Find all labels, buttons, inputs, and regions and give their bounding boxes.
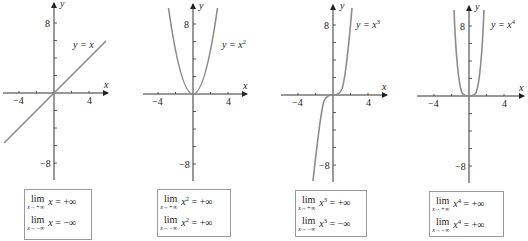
limit-pos-inf: limx→+∞ x2 = +∞	[164, 193, 226, 214]
y-axis-label: y	[59, 0, 65, 9]
y-axis-label: y	[474, 1, 480, 12]
limit-pos-inf: limx→+∞ x4 = +∞	[436, 195, 499, 216]
plot-fourth: y x −4 4 8 −8 y = x4	[417, 1, 524, 183]
lim-operator: lim	[164, 214, 177, 225]
lim-operator: lim	[302, 194, 315, 205]
x-axis-label: x	[381, 81, 387, 92]
limits-box-fourth: limx→+∞ x4 = +∞ limx→−∞ x4 = +∞	[429, 191, 504, 237]
lim-operator: lim	[31, 193, 44, 204]
limit-neg-inf: limx→−∞ x4 = +∞	[436, 216, 499, 237]
lim-approach: x→+∞	[432, 206, 449, 213]
x-tick-4: 4	[502, 98, 507, 109]
x-axis-label: x	[242, 80, 248, 91]
x-tick-neg4: −4	[292, 97, 303, 108]
x-tick-neg4: −4	[428, 98, 439, 109]
limit-neg-inf: limx→−∞ x = −∞	[31, 214, 87, 235]
plot-cube: y x −4 4 8 −8 y = x3	[281, 0, 387, 182]
lim-expression: x3 = +∞	[319, 194, 350, 208]
y-axis-label: y	[339, 0, 345, 11]
limits-box-identity: limx→+∞ x = +∞ limx→−∞ x = −∞	[24, 189, 92, 240]
x-tick-4: 4	[87, 95, 92, 106]
x-axis-label: x	[103, 79, 109, 90]
curve-label: y = x	[72, 39, 94, 50]
lim-operator: lim	[164, 193, 177, 204]
lim-expression: x4 = +∞	[453, 195, 484, 209]
x-axis-label: x	[518, 82, 524, 93]
lim-expression: x2 = +∞	[181, 214, 212, 228]
limits-box-cube: limx→+∞ x3 = +∞ limx→−∞ x3 = −∞	[295, 190, 367, 237]
curve-label: y = x3	[355, 18, 380, 30]
y-tick-8: 8	[324, 20, 329, 31]
lim-expression: x4 = +∞	[453, 216, 484, 230]
plot-identity: y x −4 4 8 −8 y = x	[3, 0, 109, 180]
lim-operator: lim	[302, 215, 315, 226]
lim-expression: x = −∞	[48, 214, 76, 228]
plot-square: y x −4 4 8 −8 y = x2	[143, 0, 248, 181]
lim-operator: lim	[436, 216, 449, 227]
limits-box-square: limx→+∞ x2 = +∞ limx→−∞ x2 = +∞	[157, 189, 231, 237]
x-tick-4: 4	[226, 96, 231, 107]
limit-pos-inf: limx→+∞ x3 = +∞	[302, 194, 362, 215]
y-axis-label: y	[198, 0, 204, 11]
y-tick-neg8: −8	[179, 159, 190, 170]
y-tick-neg8: −8	[319, 160, 330, 171]
lim-operator: lim	[436, 195, 449, 206]
limit-neg-inf: limx→−∞ x3 = −∞	[302, 215, 362, 236]
x-tick-4: 4	[366, 97, 371, 108]
lim-expression: x3 = −∞	[319, 215, 350, 229]
lim-approach: x→+∞	[160, 204, 177, 211]
x-tick-neg4: −4	[13, 95, 24, 106]
lim-approach: x→−∞	[27, 225, 44, 232]
lim-approach: x→+∞	[27, 204, 44, 211]
lim-approach: x→−∞	[160, 225, 177, 232]
y-tick-8: 8	[460, 21, 465, 32]
lim-expression: x2 = +∞	[181, 193, 212, 207]
lim-approach: x→−∞	[298, 226, 315, 233]
y-tick-neg8: −8	[455, 161, 466, 172]
y-tick-neg8: −8	[40, 158, 51, 169]
lim-approach: x→+∞	[298, 205, 315, 212]
x-tick-neg4: −4	[152, 96, 163, 107]
lim-operator: lim	[31, 214, 44, 225]
curve-label: y = x2	[221, 38, 246, 50]
limit-neg-inf: limx→−∞ x2 = +∞	[164, 214, 226, 235]
lim-expression: x = +∞	[48, 193, 76, 207]
limit-pos-inf: limx→+∞ x = +∞	[31, 193, 87, 214]
y-tick-8: 8	[184, 19, 189, 30]
curve-label: y = x4	[490, 18, 516, 30]
y-tick-8: 8	[45, 18, 50, 29]
lim-approach: x→−∞	[432, 227, 449, 234]
